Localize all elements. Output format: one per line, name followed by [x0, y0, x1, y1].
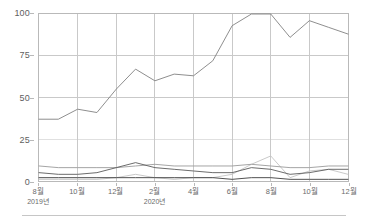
y-tick-mark — [30, 182, 34, 183]
y-tick-label-100: 100 — [14, 9, 30, 18]
x-tick-mark — [232, 183, 233, 186]
y-axis: 0255075100 — [0, 13, 34, 182]
x-tick-mark — [349, 183, 350, 186]
x-year-label: 2019년 — [27, 198, 49, 206]
x-tick-label-3: 2월 — [149, 188, 160, 196]
series-lines — [39, 14, 348, 181]
y-tick-label-75: 75 — [20, 51, 30, 60]
x-tick-mark — [77, 183, 78, 186]
x-tick-label-4: 4월 — [188, 188, 199, 196]
x-tick-mark — [155, 183, 156, 186]
x-tick-mark — [38, 183, 39, 186]
y-tick-mark — [30, 140, 34, 141]
y-tick-mark — [30, 55, 34, 56]
x-tick-label-2: 12월 — [108, 188, 123, 196]
y-tick-label-25: 25 — [20, 135, 30, 144]
y-tick-mark — [30, 13, 34, 14]
x-tick-mark — [310, 183, 311, 186]
x-tick-label-5: 6월 — [227, 188, 238, 196]
x-axis: 8월10월12월2월4월6월8월10월12월2019년2020년 — [38, 183, 349, 217]
x-tick-mark — [271, 183, 272, 186]
series-line-series-3 — [39, 163, 348, 175]
x-tick-label-6: 8월 — [266, 188, 277, 196]
x-tick-label-7: 10월 — [302, 188, 317, 196]
x-tick-label-1: 10월 — [69, 188, 84, 196]
x-year-label: 2020년 — [144, 198, 166, 206]
footer-divider — [22, 215, 346, 216]
x-tick-mark — [116, 183, 117, 186]
y-tick-mark — [30, 98, 34, 99]
series-line-series-2 — [39, 164, 348, 167]
x-tick-mark — [194, 183, 195, 186]
x-tick-label-8: 12월 — [341, 188, 356, 196]
x-tick-label-0: 8월 — [32, 188, 43, 196]
series-line-series-1 — [39, 14, 348, 119]
plot-area — [38, 13, 349, 182]
chart-screenshot: 0255075100 8월10월12월2월4월6월8월10월12월2019년20… — [0, 0, 367, 221]
y-tick-label-50: 50 — [20, 93, 30, 102]
